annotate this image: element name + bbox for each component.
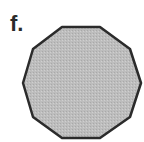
decagon-figure <box>0 0 144 142</box>
decagon-shape <box>23 27 141 138</box>
